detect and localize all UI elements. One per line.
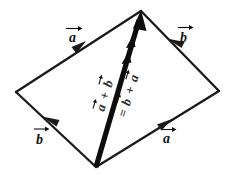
label-a-top-left-text: a bbox=[69, 30, 76, 45]
label-b-bottom-left-text: b bbox=[36, 132, 43, 147]
label-a-bottom-right-text: a bbox=[163, 131, 170, 146]
vector-addition-diagram: a b b a a + b = b + bbox=[0, 0, 229, 175]
label-b-top-right-text: b bbox=[180, 30, 187, 45]
